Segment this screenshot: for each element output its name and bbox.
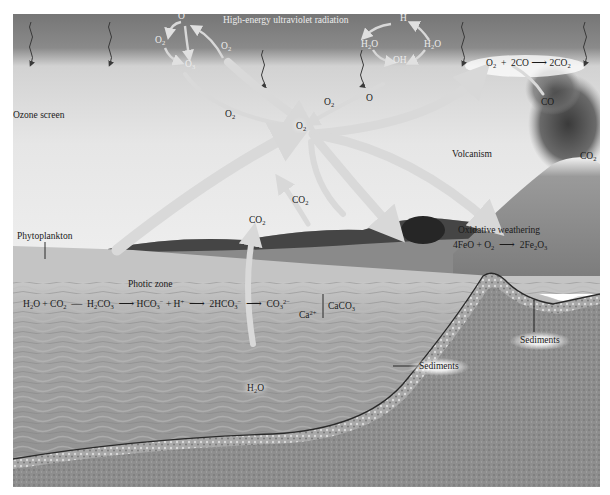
- volcanism-label: Volcanism: [452, 150, 492, 160]
- carbonate-reaction-chain: H2O + CO2 — H2CO3 ⟶ HCO3− + H+ ⟶ 2HCO3− …: [23, 298, 290, 311]
- ozone-cycle-o3: O3: [185, 60, 195, 71]
- weathering-reaction: 4FeO + O2 ⟶ 2Fe2O3: [453, 239, 547, 252]
- water-cycle-h: H: [400, 14, 407, 24]
- o2-right-label: O2: [324, 98, 334, 109]
- central-o2-label: O2: [296, 122, 306, 133]
- water-cycle-o: O: [366, 94, 373, 104]
- uv-radiation-label: High-energy ultraviolet radiation: [223, 16, 348, 26]
- co2-land-label: CO2: [292, 196, 308, 207]
- ozone-cycle-o: O: [178, 14, 185, 22]
- co2-ocean-label: CO2: [249, 216, 265, 227]
- ozone-cycle-o2-right: O2: [221, 42, 231, 53]
- h2o-ocean-label: H2O: [247, 384, 264, 395]
- caco3-label: CaCO3: [328, 302, 355, 313]
- co-volcano-label: CO: [541, 98, 554, 108]
- co2-volcano-label: CO2: [580, 152, 596, 163]
- oxygen-cycle-diagram: High-energy ultraviolet radiation O O2 O…: [13, 14, 600, 487]
- ozone-screen-label: Ozone screen: [13, 111, 64, 121]
- water-cycle-h2o-left: H2O: [361, 40, 378, 51]
- sediments-right-label: Sediments: [510, 332, 570, 350]
- calcium-ion-label: Ca2+: [299, 310, 316, 321]
- ozone-cycle-o2-left: O2: [155, 36, 165, 47]
- photic-zone-label: Photic zone: [128, 280, 173, 290]
- sediments-middle-label: Sediments: [409, 358, 469, 376]
- phytoplankton-label: Phytoplankton: [17, 232, 72, 242]
- water-cycle-h2o-right: H2O: [424, 40, 441, 51]
- water-cycle-oh: OH: [393, 56, 407, 66]
- co-oxidation-reaction: O2 + 2CO ⟶ 2CO2: [486, 57, 571, 70]
- oxidative-weathering-label: Oxidative weathering: [458, 226, 540, 236]
- o2-left-label: O2: [225, 110, 235, 121]
